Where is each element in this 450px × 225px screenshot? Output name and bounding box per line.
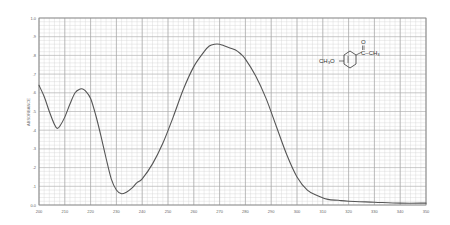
x-tick-label: 250 [165, 209, 172, 214]
x-tick-label: 300 [294, 209, 301, 214]
x-tick-label: 210 [61, 209, 68, 214]
structure-carbonyl-oxygen: O [361, 39, 366, 45]
y-axis-label: ABSORBANCE [26, 98, 31, 126]
x-tick-label: 220 [87, 209, 94, 214]
x-tick-label: 260 [190, 209, 197, 214]
x-tick-label: 270 [216, 209, 223, 214]
structure-left-group: CH₃O [319, 58, 335, 64]
x-tick-label: 280 [242, 209, 249, 214]
x-tick-label: 350 [423, 209, 430, 214]
x-tick-label: 290 [268, 209, 275, 214]
x-tick-label: 310 [319, 209, 326, 214]
x-tick-label: 200 [36, 209, 43, 214]
x-tick-label: 230 [113, 209, 120, 214]
x-tick-label: 340 [397, 209, 404, 214]
x-tick-label: 320 [345, 209, 352, 214]
y-tick-label: 0.0 [30, 203, 36, 208]
x-tick-label: 240 [139, 209, 146, 214]
x-tick-label: 330 [371, 209, 378, 214]
y-tick-label: 1.0 [30, 16, 36, 21]
structure-right-group: C–CH₃ [361, 50, 380, 56]
uv-spectrum-chart: 2002102202302402502602702802903003103203… [0, 0, 450, 225]
